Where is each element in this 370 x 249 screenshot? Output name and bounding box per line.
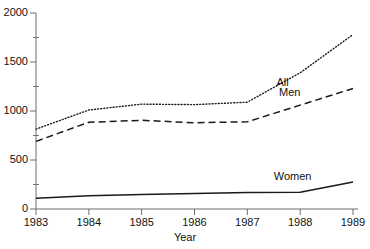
y-tick-label: 500 (0, 153, 28, 165)
x-axis-title: Year (0, 231, 370, 243)
y-tick-label: 1500 (0, 55, 28, 67)
series-label-women: Women (274, 170, 312, 182)
y-tick-label: 2000 (0, 6, 28, 18)
series-line-women (36, 182, 353, 198)
y-tick-label: 1000 (0, 104, 28, 116)
x-tick-label: 1989 (329, 216, 370, 228)
y-major-ticks (30, 13, 36, 209)
series-line-all (36, 35, 353, 130)
line-chart: 0500100015002000 19831984198519861987198… (0, 0, 370, 249)
series-label-men: Men (279, 86, 300, 98)
x-tick-label: 1987 (223, 216, 271, 228)
x-tick-label: 1984 (65, 216, 113, 228)
y-tick-label: 0 (0, 202, 28, 214)
x-tick-label: 1983 (12, 216, 60, 228)
x-tick-label: 1988 (276, 216, 324, 228)
series-line-men (36, 88, 353, 141)
x-major-ticks (36, 209, 353, 215)
x-tick-label: 1986 (171, 216, 219, 228)
plot-area (0, 0, 370, 249)
x-tick-label: 1985 (118, 216, 166, 228)
